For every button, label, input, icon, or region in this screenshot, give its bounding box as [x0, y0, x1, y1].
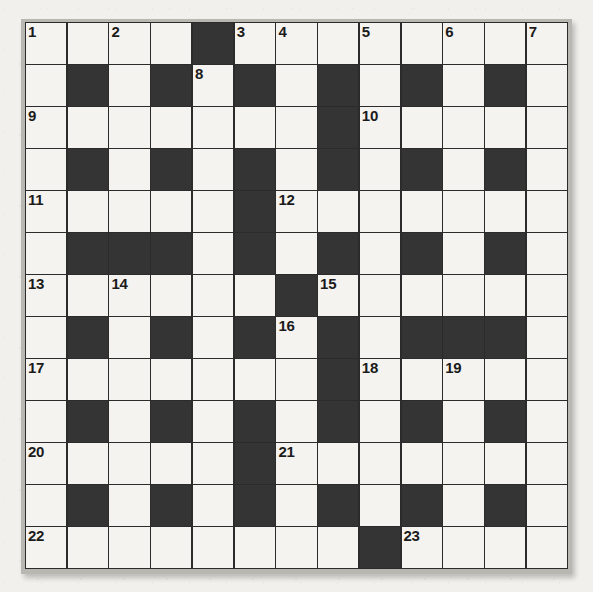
letter-cell[interactable] [485, 23, 525, 64]
letter-cell[interactable] [443, 485, 483, 526]
letter-cell[interactable] [360, 485, 400, 526]
letter-cell[interactable] [443, 401, 483, 442]
letter-cell[interactable] [527, 149, 567, 190]
letter-cell[interactable] [360, 149, 400, 190]
letter-cell[interactable]: 16 [276, 317, 316, 358]
letter-cell[interactable] [318, 443, 358, 484]
letter-cell[interactable] [151, 359, 191, 400]
letter-cell[interactable] [360, 191, 400, 232]
letter-cell[interactable]: 22 [26, 527, 66, 568]
letter-cell[interactable] [318, 23, 358, 64]
letter-cell[interactable] [402, 275, 442, 316]
letter-cell[interactable] [193, 317, 233, 358]
letter-cell[interactable] [485, 275, 525, 316]
letter-cell[interactable] [26, 233, 66, 274]
letter-cell[interactable] [26, 485, 66, 526]
letter-cell[interactable] [402, 443, 442, 484]
crossword-grid[interactable]: 1234567891011121314151617181920212223 [25, 22, 568, 569]
letter-cell[interactable] [360, 443, 400, 484]
letter-cell[interactable] [151, 443, 191, 484]
letter-cell[interactable] [193, 107, 233, 148]
letter-cell[interactable] [485, 191, 525, 232]
letter-cell[interactable] [527, 527, 567, 568]
letter-cell[interactable] [527, 359, 567, 400]
letter-cell[interactable] [527, 317, 567, 358]
letter-cell[interactable] [485, 359, 525, 400]
letter-cell[interactable] [193, 359, 233, 400]
letter-cell[interactable] [360, 317, 400, 358]
letter-cell[interactable] [485, 443, 525, 484]
letter-cell[interactable] [402, 191, 442, 232]
letter-cell[interactable] [443, 443, 483, 484]
letter-cell[interactable] [68, 443, 108, 484]
letter-cell[interactable] [402, 107, 442, 148]
letter-cell[interactable]: 11 [26, 191, 66, 232]
letter-cell[interactable] [193, 191, 233, 232]
letter-cell[interactable] [68, 23, 108, 64]
letter-cell[interactable]: 15 [318, 275, 358, 316]
letter-cell[interactable] [235, 275, 275, 316]
letter-cell[interactable] [402, 23, 442, 64]
letter-cell[interactable] [527, 65, 567, 106]
letter-cell[interactable] [193, 401, 233, 442]
letter-cell[interactable] [68, 359, 108, 400]
letter-cell[interactable]: 3 [235, 23, 275, 64]
letter-cell[interactable] [360, 275, 400, 316]
letter-cell[interactable]: 21 [276, 443, 316, 484]
letter-cell[interactable] [68, 107, 108, 148]
letter-cell[interactable] [485, 527, 525, 568]
letter-cell[interactable] [109, 191, 149, 232]
letter-cell[interactable] [276, 233, 316, 274]
letter-cell[interactable] [276, 149, 316, 190]
letter-cell[interactable]: 2 [109, 23, 149, 64]
letter-cell[interactable]: 7 [527, 23, 567, 64]
letter-cell[interactable] [527, 401, 567, 442]
letter-cell[interactable] [360, 401, 400, 442]
letter-cell[interactable] [318, 527, 358, 568]
letter-cell[interactable] [109, 485, 149, 526]
letter-cell[interactable]: 19 [443, 359, 483, 400]
letter-cell[interactable]: 1 [26, 23, 66, 64]
letter-cell[interactable]: 9 [26, 107, 66, 148]
letter-cell[interactable] [527, 275, 567, 316]
letter-cell[interactable] [443, 107, 483, 148]
letter-cell[interactable] [68, 527, 108, 568]
letter-cell[interactable] [235, 359, 275, 400]
letter-cell[interactable] [527, 443, 567, 484]
letter-cell[interactable] [527, 233, 567, 274]
letter-cell[interactable]: 4 [276, 23, 316, 64]
letter-cell[interactable] [109, 527, 149, 568]
letter-cell[interactable] [109, 443, 149, 484]
letter-cell[interactable] [193, 233, 233, 274]
letter-cell[interactable]: 23 [402, 527, 442, 568]
letter-cell[interactable] [485, 107, 525, 148]
letter-cell[interactable]: 18 [360, 359, 400, 400]
letter-cell[interactable] [235, 107, 275, 148]
letter-cell[interactable] [109, 149, 149, 190]
letter-cell[interactable] [26, 149, 66, 190]
letter-cell[interactable] [276, 65, 316, 106]
letter-cell[interactable] [109, 359, 149, 400]
letter-cell[interactable] [151, 191, 191, 232]
letter-cell[interactable]: 12 [276, 191, 316, 232]
letter-cell[interactable] [193, 149, 233, 190]
letter-cell[interactable] [443, 275, 483, 316]
letter-cell[interactable]: 8 [193, 65, 233, 106]
letter-cell[interactable] [318, 191, 358, 232]
letter-cell[interactable]: 5 [360, 23, 400, 64]
letter-cell[interactable] [151, 107, 191, 148]
letter-cell[interactable] [402, 359, 442, 400]
letter-cell[interactable] [193, 443, 233, 484]
letter-cell[interactable]: 10 [360, 107, 400, 148]
letter-cell[interactable] [360, 233, 400, 274]
letter-cell[interactable] [276, 485, 316, 526]
letter-cell[interactable] [443, 191, 483, 232]
letter-cell[interactable]: 13 [26, 275, 66, 316]
letter-cell[interactable] [68, 275, 108, 316]
letter-cell[interactable]: 6 [443, 23, 483, 64]
letter-cell[interactable] [68, 191, 108, 232]
letter-cell[interactable] [151, 275, 191, 316]
letter-cell[interactable] [276, 359, 316, 400]
letter-cell[interactable] [527, 485, 567, 526]
letter-cell[interactable] [109, 65, 149, 106]
